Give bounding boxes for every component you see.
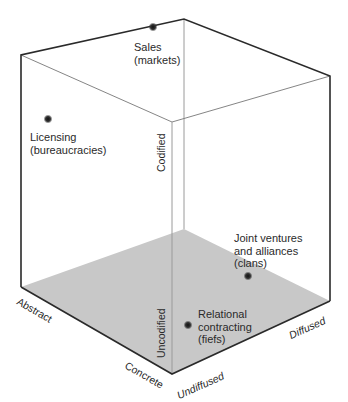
licensing-dot xyxy=(44,115,53,124)
top-diagonal-edge-right xyxy=(172,76,330,122)
axis-uncodified: Uncodified xyxy=(155,308,167,358)
relational-label: Relational contracting (fiefs) xyxy=(198,308,252,346)
licensing-label: Licensing (bureaucracies) xyxy=(30,131,106,156)
sales-dot xyxy=(149,23,158,32)
sales-label: Sales (markets) xyxy=(134,41,180,66)
joint-ventures-label: Joint ventures and alliances (clans) xyxy=(234,232,302,270)
axis-codified: Codified xyxy=(155,133,167,172)
joint-ventures-dot xyxy=(244,272,253,281)
relational-dot xyxy=(184,321,193,330)
